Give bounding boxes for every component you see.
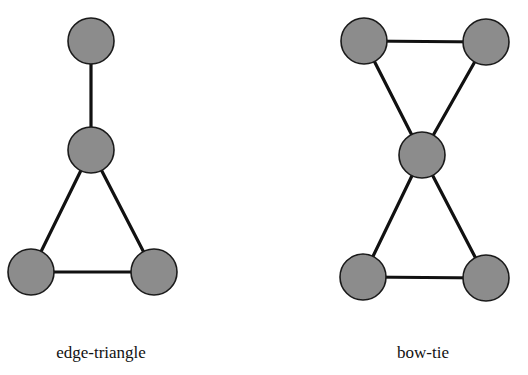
node-top-left <box>341 18 387 64</box>
node-center <box>399 132 445 178</box>
edge-triangle-graph <box>8 18 177 295</box>
node-top <box>68 18 114 64</box>
node-bottom-left <box>8 249 54 295</box>
node-bottom-left <box>340 254 386 300</box>
node-middle <box>68 127 114 173</box>
node-bottom-right <box>463 255 509 301</box>
node-top-right <box>463 19 509 65</box>
node-bottom-right <box>131 249 177 295</box>
graph-figure: edge-triangle bow-tie <box>0 0 528 375</box>
bow-tie-graph <box>340 18 509 301</box>
edge-triangle-label: edge-triangle <box>56 343 146 362</box>
bow-tie-label: bow-tie <box>397 343 449 362</box>
